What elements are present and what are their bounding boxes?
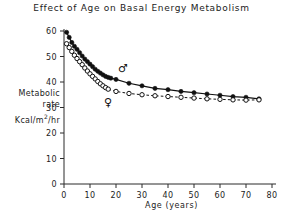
y-tick-label: 10	[46, 155, 57, 164]
data-point-male	[67, 35, 71, 39]
data-series	[64, 30, 261, 102]
data-point-female	[153, 94, 157, 98]
series-line-male	[67, 32, 259, 99]
data-point-female	[127, 91, 131, 95]
data-point-female	[244, 98, 248, 102]
x-tick-label: 40	[163, 191, 174, 200]
data-point-female	[166, 94, 170, 98]
data-point-male	[140, 84, 144, 88]
y-tick-label: 50	[46, 53, 57, 62]
data-point-female	[106, 87, 110, 91]
x-tick-label: 0	[61, 191, 67, 200]
data-point-female	[257, 98, 261, 102]
data-point-female	[114, 89, 118, 93]
data-point-male	[166, 88, 170, 92]
data-point-female	[205, 97, 209, 101]
data-point-female	[179, 95, 183, 99]
data-point-male	[65, 30, 69, 34]
data-point-female	[218, 97, 222, 101]
y-tick-label: 20	[46, 129, 57, 138]
y-tick-label: 0	[52, 180, 58, 189]
y-tick-label: 30	[46, 104, 57, 113]
x-tick-label: 10	[85, 191, 96, 200]
x-tick-label: 80	[267, 191, 278, 200]
x-tick-label: 20	[111, 191, 122, 200]
y-tick-label: 60	[46, 27, 57, 36]
y-tick-label: 40	[46, 78, 57, 87]
x-tick-label: 60	[215, 191, 226, 200]
data-point-male	[153, 86, 157, 90]
data-point-male	[192, 91, 196, 95]
data-point-female	[140, 93, 144, 97]
x-tick-label: 70	[241, 191, 252, 200]
data-point-male	[109, 76, 113, 80]
chart-figure: Effect of Age on Basal Energy Metabolism…	[0, 0, 283, 222]
data-point-female	[231, 98, 235, 102]
data-point-male	[127, 81, 131, 85]
data-point-male	[179, 89, 183, 93]
data-point-male	[70, 40, 74, 44]
series-line-female	[67, 44, 259, 100]
data-point-male	[205, 92, 209, 96]
x-tick-label: 50	[189, 191, 200, 200]
x-tick-label: 30	[137, 191, 148, 200]
plot-area: 010203040506001020304050607080	[0, 0, 283, 222]
data-point-male	[114, 77, 118, 81]
data-point-female	[192, 96, 196, 100]
